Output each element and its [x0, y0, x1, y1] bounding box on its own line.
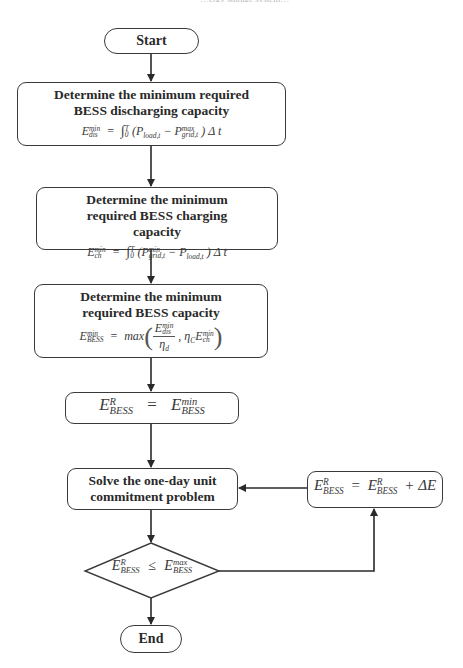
- update-capacity-box: ERBESS = ERBESS + ΔE: [307, 471, 443, 508]
- bess-capacity-box: Determine the minimum required BESS capa…: [34, 284, 268, 358]
- decision-formula: ERBESS ≤ EmaxBESS: [85, 558, 219, 575]
- start-terminal: Start: [104, 28, 199, 54]
- discharge-formula: Emindis = ∫T0 (Pload,t − Pmaxgrid,t ) Δ …: [18, 123, 285, 140]
- end-terminal: End: [120, 625, 182, 653]
- solve-unit-commitment-box: Solve the one-day unit commitment proble…: [67, 468, 238, 510]
- update-formula: ERBESS = ERBESS + ΔE: [308, 477, 442, 495]
- discharge-capacity-box: Determine the minimum required BESS disc…: [17, 82, 286, 146]
- discharge-title: Determine the minimum required BESS disc…: [18, 87, 285, 119]
- charge-formula: Eminch = ∫T0 (Pmingrid,t − Pload,t ) Δ t: [37, 244, 277, 261]
- capacity-formula: EminBESS = max(Emindisηd,ηCEminch): [35, 321, 267, 353]
- solve-title: Solve the one-day unit commitment proble…: [82, 473, 223, 505]
- start-label: Start: [136, 33, 166, 49]
- capacity-title: Determine the minimum required BESS capa…: [35, 289, 267, 321]
- charge-title: Determine the minimum required BESS char…: [37, 192, 277, 240]
- end-label: End: [139, 631, 164, 647]
- init-assignment-box: ERBESS = EminBESS: [65, 392, 239, 424]
- init-formula: ERBESS = EminBESS: [66, 395, 238, 416]
- charge-capacity-box: Determine the minimum required BESS char…: [36, 187, 278, 250]
- decision-condition: ERBESS ≤ EmaxBESS: [85, 558, 219, 575]
- arrow-decision-to-update: [219, 509, 374, 571]
